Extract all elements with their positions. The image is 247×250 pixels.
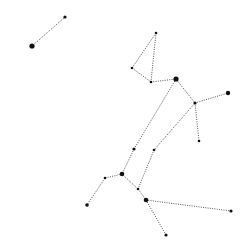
star-icon — [144, 198, 149, 203]
star-icon — [164, 233, 167, 236]
constellation-lines — [32, 17, 231, 235]
star-icon — [153, 149, 156, 152]
star-icon — [132, 147, 135, 150]
star-icon — [226, 91, 230, 95]
constellation-line — [132, 33, 156, 68]
constellation-line — [146, 200, 231, 211]
star-icon — [198, 140, 201, 143]
constellation-line — [105, 174, 122, 178]
constellation-line — [146, 200, 166, 235]
constellation-line — [151, 79, 176, 82]
star-icon — [63, 15, 66, 18]
star-icon — [29, 43, 34, 48]
constellation-line — [87, 178, 105, 205]
constellation-line — [122, 149, 134, 174]
constellation-line — [176, 79, 195, 103]
constellation-line — [132, 68, 151, 82]
constellation-diagram — [0, 0, 247, 250]
star-icon — [137, 188, 140, 191]
constellation-line — [138, 150, 154, 189]
star-icon — [104, 177, 107, 180]
constellation-stars — [29, 15, 232, 236]
constellation-line — [122, 174, 138, 189]
constellation-line — [195, 103, 199, 141]
star-icon — [155, 32, 158, 35]
star-icon — [229, 209, 232, 212]
star-icon — [173, 76, 178, 81]
star-icon — [120, 172, 125, 177]
star-icon — [150, 81, 153, 84]
star-icon — [85, 203, 89, 207]
star-icon — [193, 101, 196, 104]
constellation-line — [195, 93, 228, 103]
constellation-line — [32, 17, 65, 46]
star-icon — [131, 67, 134, 70]
constellation-line — [154, 103, 195, 150]
constellation-line — [151, 33, 156, 82]
constellation-line — [134, 79, 176, 149]
